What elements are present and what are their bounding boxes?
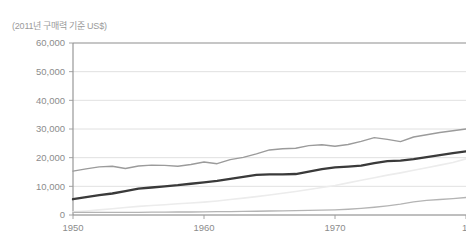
tick-marks-group [69,43,466,219]
x-axis-tick-labels: 1950196019701 [62,222,466,233]
y-axis-tick-labels: 010,00020,00030,00040,00050,00060,000 [36,37,65,220]
x-tick-label: 1960 [193,222,214,233]
series-line-lower-gray-line [73,198,466,213]
y-tick-label: 50,000 [36,66,65,77]
series-line-upper-gray-line [73,129,466,171]
x-tick-label: 1970 [324,222,345,233]
y-tick-label: 0 [60,209,65,220]
y-tick-label: 10,000 [36,181,65,192]
x-tick-label: 1950 [62,222,83,233]
y-tick-label: 30,000 [36,123,65,134]
series-line-main-dark-line [73,151,466,199]
series-group [73,129,466,212]
y-tick-label: 40,000 [36,95,65,106]
chart-container: (2011년 구매력 기준 US$) 010,00020,00030,00040… [0,0,466,250]
y-tick-label: 60,000 [36,37,65,48]
x-tick-label: 1 [462,222,466,233]
line-chart-plot: 010,00020,00030,00040,00050,00060,000 19… [0,0,466,250]
y-tick-label: 20,000 [36,152,65,163]
